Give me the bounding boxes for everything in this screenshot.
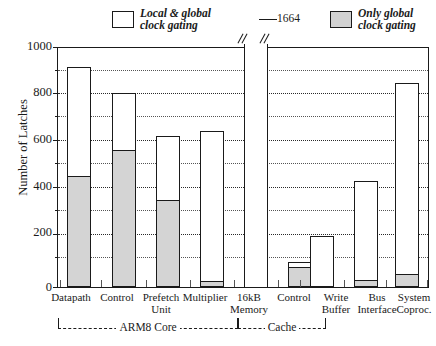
y-tick-200 <box>53 234 58 235</box>
legend-label-line2: clock gating <box>140 20 211 32</box>
bar-control-arm8-gray-segment <box>112 150 137 287</box>
y-tick-300 <box>55 210 58 211</box>
x-label-line1: System <box>389 292 436 304</box>
bar-multiplier <box>200 131 224 288</box>
y-tick-label-600: 600 <box>0 133 52 146</box>
latch-count-bar-chart: Local & global clock gating Only global … <box>0 0 436 346</box>
y-tick-label-800: 800 <box>0 86 52 99</box>
bar-system-coproc <box>395 83 419 287</box>
legend-label-line1: Only global <box>358 8 416 20</box>
legend-label-line1: Local & global <box>140 8 211 20</box>
bar-prefetch-unit-gray-segment <box>156 200 181 287</box>
bar-16kb-memory <box>244 37 268 287</box>
y-tick-label-1000: 1000 <box>0 40 52 53</box>
x-separator-2 <box>146 280 147 287</box>
bar-multiplier-gray-segment <box>200 281 225 287</box>
y-tick-100 <box>55 257 58 258</box>
bar-prefetch-unit <box>156 136 180 287</box>
y-tick-label-400: 400 <box>0 180 52 193</box>
axis-break-slash-right <box>260 37 271 39</box>
x-separator-4 <box>234 280 235 287</box>
group-label-arm8-core: ARM8 Core <box>116 322 179 334</box>
bar-system-coproc-gray-segment <box>395 274 420 287</box>
y-tick-700 <box>55 116 58 117</box>
group-bracket-cache: Cache <box>238 322 326 333</box>
x-separator-0 <box>60 280 61 287</box>
legend-swatch-white <box>112 11 134 28</box>
x-separator-5 <box>278 280 279 287</box>
y-tick-1000 <box>53 47 58 48</box>
annotation-value-1664: 1664 <box>277 12 300 24</box>
x-separator-3 <box>190 280 191 287</box>
y-tick-900 <box>55 70 58 71</box>
bar-bus-interface-gray-segment <box>354 280 379 287</box>
x-label-line2: Unit <box>130 304 192 316</box>
x-separator-1 <box>101 280 102 287</box>
y-tick-label-200: 200 <box>0 226 52 239</box>
x-separator-8 <box>386 280 387 287</box>
x-separator-7 <box>344 280 345 287</box>
bar-bus-interface <box>354 181 378 287</box>
group-bracket-arm8-core: ARM8 Core <box>58 322 238 333</box>
legend-label-only-global: Only global clock gating <box>358 8 416 31</box>
plot-area <box>57 47 429 288</box>
x-label-line2: Memory <box>221 304 277 316</box>
gridline-900 <box>58 70 428 71</box>
x-separator-9 <box>427 280 428 287</box>
bar-write-buffer <box>310 236 334 287</box>
y-tick-400 <box>53 187 58 188</box>
annotation-leader-line <box>259 19 277 20</box>
legend-label-line2: clock gating <box>358 20 416 32</box>
y-tick-0 <box>53 287 58 288</box>
bar-control-arm8 <box>112 93 136 287</box>
legend-item-only-global: Only global clock gating <box>330 8 416 31</box>
y-tick-500 <box>55 163 58 164</box>
y-tick-600 <box>53 140 58 141</box>
legend-item-local-global: Local & global clock gating <box>112 8 211 31</box>
group-label-cache: Cache <box>265 322 300 334</box>
bar-datapath-gray-segment <box>67 176 92 287</box>
y-tick-800 <box>53 93 58 94</box>
legend-label-local-global: Local & global clock gating <box>140 8 211 31</box>
x-tick-label-system-coproc: System Coproc. <box>389 292 436 315</box>
axis-break-slash-left <box>238 37 249 39</box>
x-label-line2: Coproc. <box>389 304 436 316</box>
x-separator-6 <box>300 280 301 287</box>
legend-swatch-gray <box>330 11 352 28</box>
bar-datapath <box>67 67 91 287</box>
